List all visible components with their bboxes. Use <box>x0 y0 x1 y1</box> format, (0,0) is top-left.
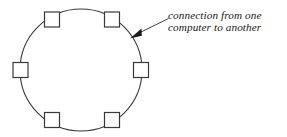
diagram-canvas: connection from one computer to another <box>0 0 287 137</box>
node-top-left[interactable] <box>45 12 60 27</box>
annotation-line-2: computer to another <box>168 21 262 33</box>
node-top-right[interactable] <box>105 12 120 27</box>
node-middle-left[interactable] <box>13 63 28 78</box>
arrowhead-icon <box>130 29 142 39</box>
annotation-line-1: connection from one <box>168 9 261 21</box>
node-bottom-right[interactable] <box>105 113 120 128</box>
annotation-arrow <box>130 19 169 39</box>
annotation-leader-line <box>138 19 169 34</box>
node-group <box>13 12 149 128</box>
network-ring-circle <box>20 9 142 131</box>
node-middle-right[interactable] <box>134 63 149 78</box>
ring-topology-diagram: connection from one computer to another <box>0 0 287 137</box>
node-bottom-left[interactable] <box>45 113 60 128</box>
